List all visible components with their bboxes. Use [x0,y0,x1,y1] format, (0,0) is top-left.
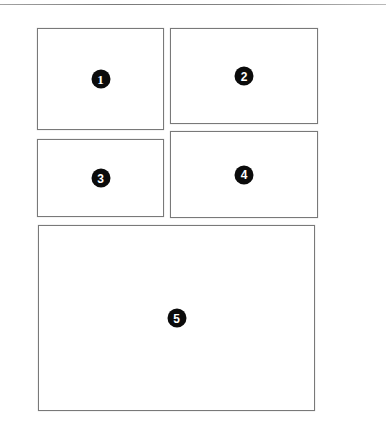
panel-number-badge-1: 1 [91,70,110,89]
wireframe-panel-2[interactable]: 2 [170,28,318,124]
wireframe-panel-3[interactable]: 3 [37,139,164,217]
panel-number-badge-2: 2 [235,67,254,86]
panel-number-badge-4: 4 [235,165,254,184]
wireframe-panel-5[interactable]: 5 [38,225,315,411]
figure-canvas: 1 2 3 4 5 [0,0,386,438]
panel-number-badge-5: 5 [167,309,186,328]
wireframe-panel-1[interactable]: 1 [37,28,164,130]
panel-number-badge-3: 3 [91,169,110,188]
wireframe-panel-4[interactable]: 4 [170,131,318,218]
top-horizontal-rule [0,4,386,5]
